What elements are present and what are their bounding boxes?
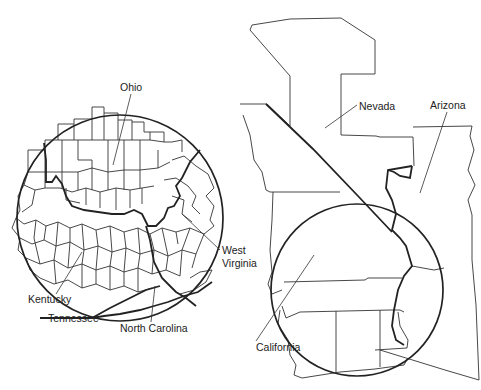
right-map: Nevada Arizona California — [240, 18, 479, 380]
label-nevada: Nevada — [359, 100, 395, 112]
label-california: California — [256, 341, 301, 353]
right-leader-lines — [256, 105, 447, 341]
label-arizona: Arizona — [430, 99, 466, 111]
label-tennessee: Tennessee — [48, 312, 99, 324]
county-borders-right — [240, 18, 479, 380]
map-figure: Ohio West Virginia Kentucky Tennessee No… — [0, 0, 481, 390]
label-west-virginia-line2: Virginia — [222, 257, 257, 269]
left-map: Ohio West Virginia Kentucky Tennessee No… — [12, 81, 257, 334]
state-borders-right — [266, 104, 412, 345]
label-west-virginia-line1: West — [222, 244, 246, 256]
southern-counties — [12, 156, 214, 294]
state-borders-left — [40, 143, 212, 318]
label-north-carolina: North Carolina — [120, 322, 188, 334]
label-kentucky: Kentucky — [28, 293, 72, 305]
ohio-counties — [16, 107, 182, 218]
label-ohio: Ohio — [120, 81, 142, 93]
